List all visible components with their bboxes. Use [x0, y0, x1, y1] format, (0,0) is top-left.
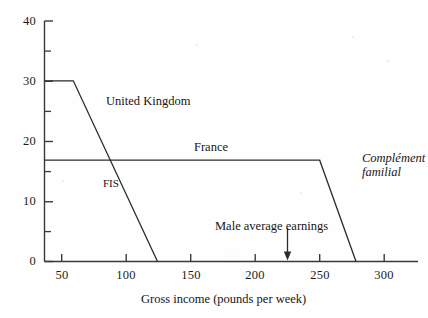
x-tick-label-50: 50	[52, 268, 72, 283]
series-label-fis: FIS	[103, 177, 119, 189]
series-label-united-kingdom: United Kingdom	[106, 94, 190, 109]
chart-figure: 40 30 20 10 0 50 100 150 200 250 300 Uni…	[0, 0, 428, 318]
x-tick-label-200: 200	[241, 268, 269, 283]
x-tick-label-100: 100	[112, 268, 140, 283]
series-label-complement-familial-line1: Complément	[362, 152, 425, 165]
x-tick-label-250: 250	[306, 268, 334, 283]
x-axis-major-ticks	[62, 254, 385, 262]
series-label-complement-familial-line2: familial	[362, 166, 401, 179]
y-tick-label-40: 40	[8, 14, 36, 29]
series-label-france: France	[194, 140, 228, 155]
x-tick-label-150: 150	[177, 268, 205, 283]
x-tick-label-300: 300	[370, 268, 398, 283]
y-tick-label-30: 30	[8, 74, 36, 89]
y-axis-major-ticks	[45, 21, 54, 262]
y-tick-label-20: 20	[8, 134, 36, 149]
y-tick-label-0: 0	[8, 254, 36, 269]
annotation-male-average-earnings: Male average earnings	[215, 219, 328, 234]
x-axis-title: Gross income (pounds per week)	[141, 292, 306, 307]
series-line-france	[45, 160, 357, 261]
y-tick-label-10: 10	[8, 194, 36, 209]
